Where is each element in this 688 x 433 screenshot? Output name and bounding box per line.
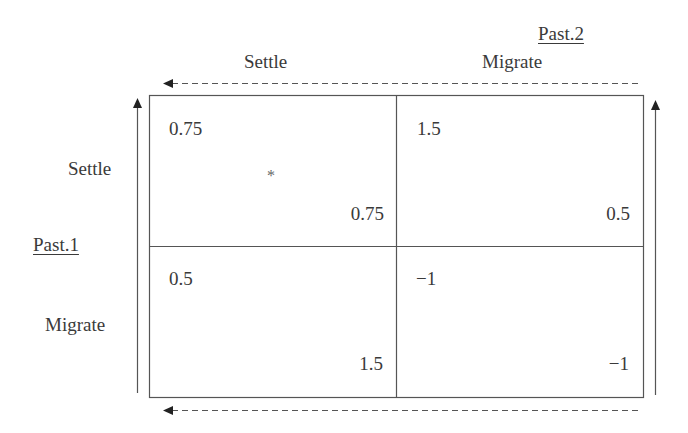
row-player-title: Past.1 [33, 235, 79, 254]
column-player-title: Past.2 [538, 24, 584, 43]
row-payoff: −1 [416, 269, 436, 288]
row-payoff: 0.75 [169, 119, 202, 138]
column-strategy-migrate: Migrate [482, 52, 542, 71]
row-strategy-migrate: Migrate [45, 315, 105, 334]
col-payoff: −1 [609, 354, 629, 373]
column-strategy-settle: Settle [244, 52, 287, 71]
row-payoff: 0.5 [169, 269, 193, 288]
row-strategy-settle: Settle [68, 159, 111, 178]
left-solid-arrow-up-icon [133, 98, 142, 393]
row-payoff: 1.5 [417, 119, 441, 138]
col-payoff: 0.5 [606, 204, 630, 223]
cell-migrate-settle: 0.5 1.5 [150, 247, 396, 397]
top-dashed-arrow-left-icon [163, 79, 640, 88]
col-payoff: 1.5 [359, 354, 383, 373]
col-payoff: 0.75 [351, 204, 384, 223]
cell-settle-migrate: 1.5 0.5 [397, 96, 643, 246]
bottom-dashed-arrow-left-icon [163, 406, 640, 415]
right-solid-arrow-up-icon [651, 100, 660, 395]
cell-migrate-migrate: −1 −1 [397, 247, 643, 397]
cell-settle-settle: 0.75 * 0.75 [150, 96, 396, 246]
nash-equilibrium-marker: * [267, 168, 275, 184]
